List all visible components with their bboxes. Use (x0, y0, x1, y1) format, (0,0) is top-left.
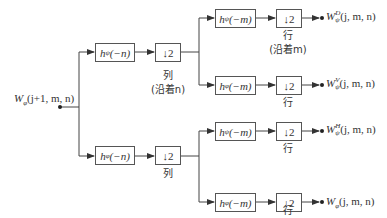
label-column: 列 (150, 70, 186, 82)
downsample-col-bottom: ↓2 (155, 146, 181, 165)
label-row: 行 (270, 205, 306, 217)
downsample-row: ↓2 (276, 122, 302, 141)
downsample-col-top: ↓2 (155, 43, 181, 62)
input-label: Wφ(j+1, m, n) (14, 92, 74, 107)
label-along-m: (沿着m) (258, 44, 318, 56)
filter-h-phi-n: hφ(−n) (95, 146, 135, 165)
label-row: 行 (270, 97, 306, 109)
downsample-row: ↓2 (276, 9, 302, 28)
label-along-n: (沿着n) (140, 84, 196, 96)
connection-lines (0, 0, 387, 218)
output-W-D-psi: WDψ(j, m, n) (326, 10, 376, 24)
label-column: 列 (150, 168, 186, 180)
label-row: 行 (270, 30, 306, 42)
output-W-phi: Wφ(j, m, n) (326, 195, 375, 210)
filter-h-phi-m: hφ(−m) (215, 76, 256, 95)
filter-h-psi-m: hψ(−m) (215, 122, 256, 141)
output-W-H-psi: WHψ(j, m, n) (326, 123, 376, 137)
filter-h-psi-n: hψ(−n) (95, 43, 135, 62)
filter-h-psi-m: hψ(−m) (215, 9, 256, 28)
filter-h-phi-m: hφ(−m) (215, 193, 256, 212)
downsample-row: ↓2 (276, 76, 302, 95)
label-row: 行 (270, 143, 306, 155)
output-W-V-psi: WVψ(j, m, n) (326, 77, 375, 91)
